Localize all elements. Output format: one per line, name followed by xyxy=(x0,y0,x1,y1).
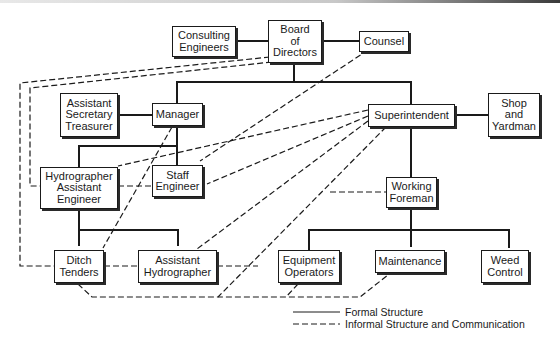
node-working-foreman: Working Foreman xyxy=(386,177,437,208)
node-staff-engineer: Staff Engineer xyxy=(152,165,203,197)
legend-informal-label: Informal Structure and Communication xyxy=(345,318,525,330)
node-assistant-secretary-treasurer: Assistant Secretary Treasurer xyxy=(60,93,118,137)
legend-formal-label: Formal Structure xyxy=(345,306,423,318)
node-shop-and-yardman: Shop and Yardman xyxy=(488,93,540,137)
node-consulting-engineers: Consulting Engineers xyxy=(172,26,236,57)
legend: Formal Structure Informal Structure and … xyxy=(345,306,525,330)
node-ditch-tenders: Ditch Tenders xyxy=(54,250,104,283)
node-superintendent: Superintendent xyxy=(368,104,455,127)
node-hydrographer-assistant-engineer: Hydrographer Assistant Engineer xyxy=(40,167,118,209)
node-equipment-operators: Equipment Operators xyxy=(278,250,340,283)
node-assistant-hydrographer: Assistant Hydrographer xyxy=(138,250,217,283)
node-board-of-directors: Board of Directors xyxy=(268,20,322,63)
node-counsel: Counsel xyxy=(359,31,409,52)
node-manager: Manager xyxy=(152,103,203,126)
node-maintenance: Maintenance xyxy=(375,250,445,273)
node-weed-control: Weed Control xyxy=(481,250,529,283)
